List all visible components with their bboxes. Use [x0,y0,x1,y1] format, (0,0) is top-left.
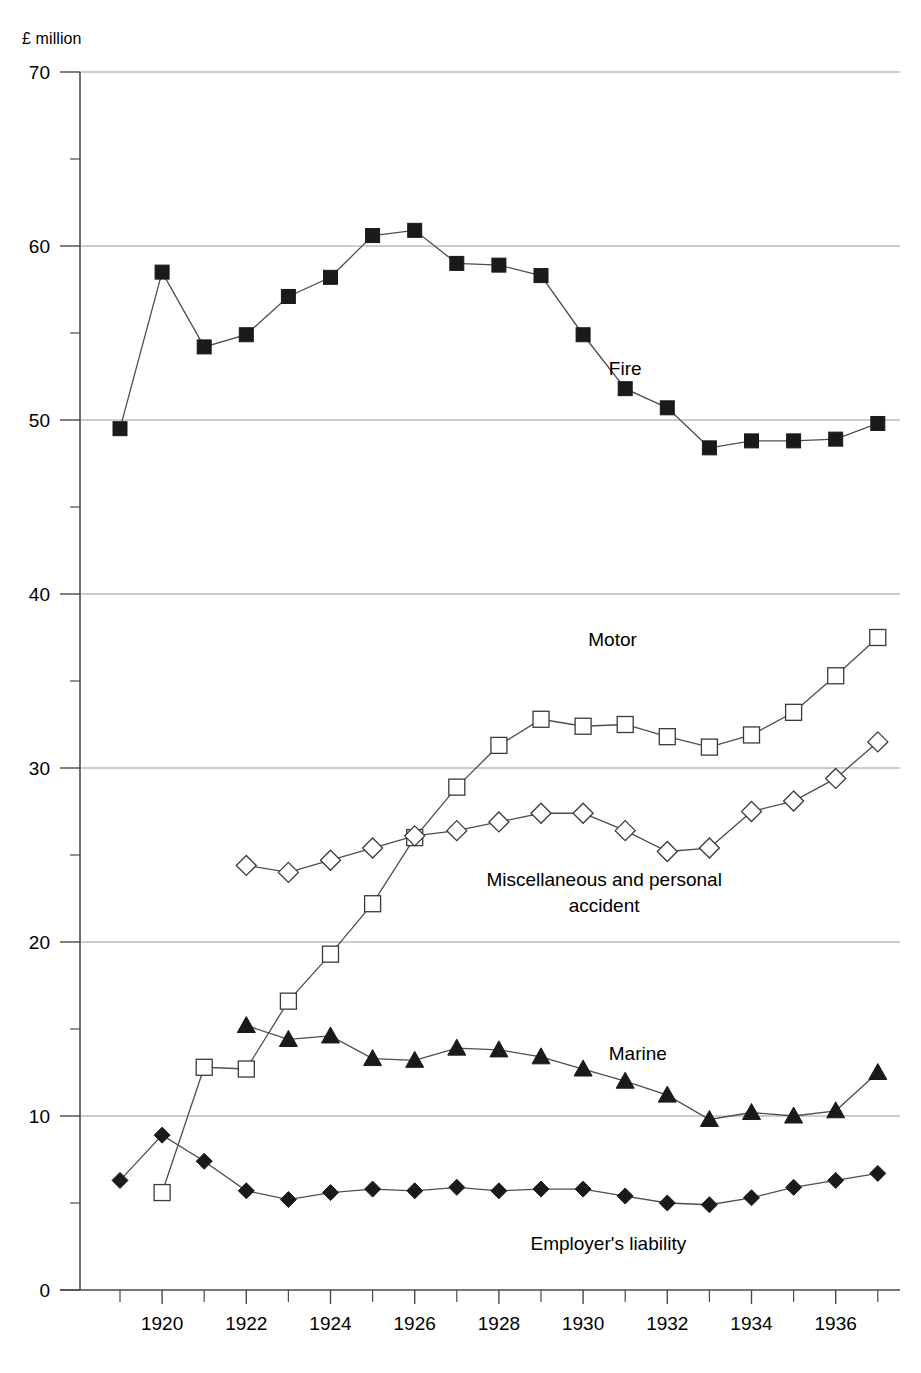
data-point-1923 [280,993,296,1009]
data-point-1923 [281,289,295,303]
series-annotations: FireMotorMiscellaneous and personalaccid… [486,358,722,1254]
data-point-1929 [531,803,551,823]
data-point-1931 [617,717,633,733]
data-point-1930 [573,803,593,823]
y-tick-label-50: 50 [29,410,50,431]
series-employer-s-liability [112,1127,886,1213]
data-point-1921 [196,1153,212,1169]
data-point-1923 [280,1192,296,1208]
data-point-1925 [365,1181,381,1197]
data-point-1929 [533,711,549,727]
data-point-1935 [786,1179,802,1195]
series-line [246,1026,878,1120]
data-point-1933 [701,739,717,755]
data-point-1924 [323,1185,339,1201]
data-point-1934 [744,1190,760,1206]
data-point-1935 [787,434,801,448]
data-point-1935 [784,791,804,811]
data-point-1930 [574,1060,592,1076]
data-point-1930 [575,718,591,734]
data-point-1937 [868,732,888,752]
data-point-1931 [617,1188,633,1204]
data-point-1933 [701,1197,717,1213]
data-point-1934 [743,1104,761,1120]
series-label-miscellaneous-and-personal-accident: Miscellaneous and personal [486,869,722,890]
data-point-1934 [745,434,759,448]
data-point-1934 [744,727,760,743]
y-tick-label-40: 40 [29,584,50,605]
data-point-1925 [366,229,380,243]
data-point-1933 [702,441,716,455]
data-point-1932 [659,729,675,745]
x-tick-label-1920: 1920 [141,1313,183,1334]
data-point-1936 [826,768,846,788]
data-point-1923 [278,862,298,882]
data-point-1933 [699,838,719,858]
data-point-1932 [657,842,677,862]
line-chart-plot: 010203040506070 192019221924192619281930… [0,0,921,1373]
data-point-1921 [196,1059,212,1075]
x-tick-label-1934: 1934 [730,1313,773,1334]
data-series [112,223,888,1212]
x-tick-label-1922: 1922 [225,1313,267,1334]
data-point-1925 [365,896,381,912]
series-line [246,742,878,873]
series-miscellaneous-and-personal-accident [236,732,888,883]
y-tick-label-70: 70 [29,62,50,83]
data-point-1937 [870,630,886,646]
data-point-1927 [449,1179,465,1195]
data-point-1922 [236,855,256,875]
data-point-1931 [618,382,632,396]
data-point-1932 [658,1086,676,1102]
data-point-1931 [616,1072,634,1088]
x-axis-tick-labels: 192019221924192619281930193219341936 [141,1313,857,1334]
series-label-misc-line2: accident [569,895,640,916]
data-point-1927 [449,779,465,795]
data-point-1928 [491,737,507,753]
data-point-1927 [448,1039,466,1055]
data-point-1935 [786,704,802,720]
data-point-1926 [406,1051,424,1067]
data-point-1924 [321,850,341,870]
data-point-1922 [239,328,253,342]
data-point-1929 [534,269,548,283]
data-point-1929 [533,1181,549,1197]
y-tick-label-20: 20 [29,932,50,953]
data-point-1937 [871,416,885,430]
data-point-1928 [490,1041,508,1057]
data-point-1928 [489,812,509,832]
data-point-1924 [324,270,338,284]
data-point-1930 [575,1181,591,1197]
data-point-1928 [492,258,506,272]
data-point-1925 [363,838,383,858]
data-point-1920 [154,1185,170,1201]
data-point-1927 [447,821,467,841]
data-point-1924 [323,946,339,962]
data-point-1936 [829,432,843,446]
data-point-1919 [113,422,127,436]
gridlines [78,72,900,1116]
y-axis-tick-labels: 010203040506070 [29,62,50,1301]
series-label-fire: Fire [609,358,642,379]
x-tick-label-1930: 1930 [562,1313,604,1334]
data-point-1927 [450,256,464,270]
x-tick-label-1936: 1936 [815,1313,857,1334]
data-point-1932 [660,401,674,415]
x-tick-label-1932: 1932 [646,1313,688,1334]
data-point-1928 [491,1183,507,1199]
data-point-1937 [870,1165,886,1181]
data-point-1937 [869,1064,887,1080]
data-point-1936 [828,668,844,684]
series-label-marine: Marine [609,1043,667,1064]
data-point-1922 [238,1183,254,1199]
x-tick-label-1924: 1924 [309,1313,352,1334]
data-point-1925 [364,1050,382,1066]
y-tick-label-30: 30 [29,758,50,779]
series-label-employer-s-liability: Employer's liability [531,1233,687,1254]
y-tick-label-60: 60 [29,236,50,257]
y-tick-label-0: 0 [39,1280,50,1301]
series-label-motor: Motor [588,629,637,650]
data-point-1926 [408,223,422,237]
data-point-1931 [615,821,635,841]
series-marine [237,1017,887,1127]
